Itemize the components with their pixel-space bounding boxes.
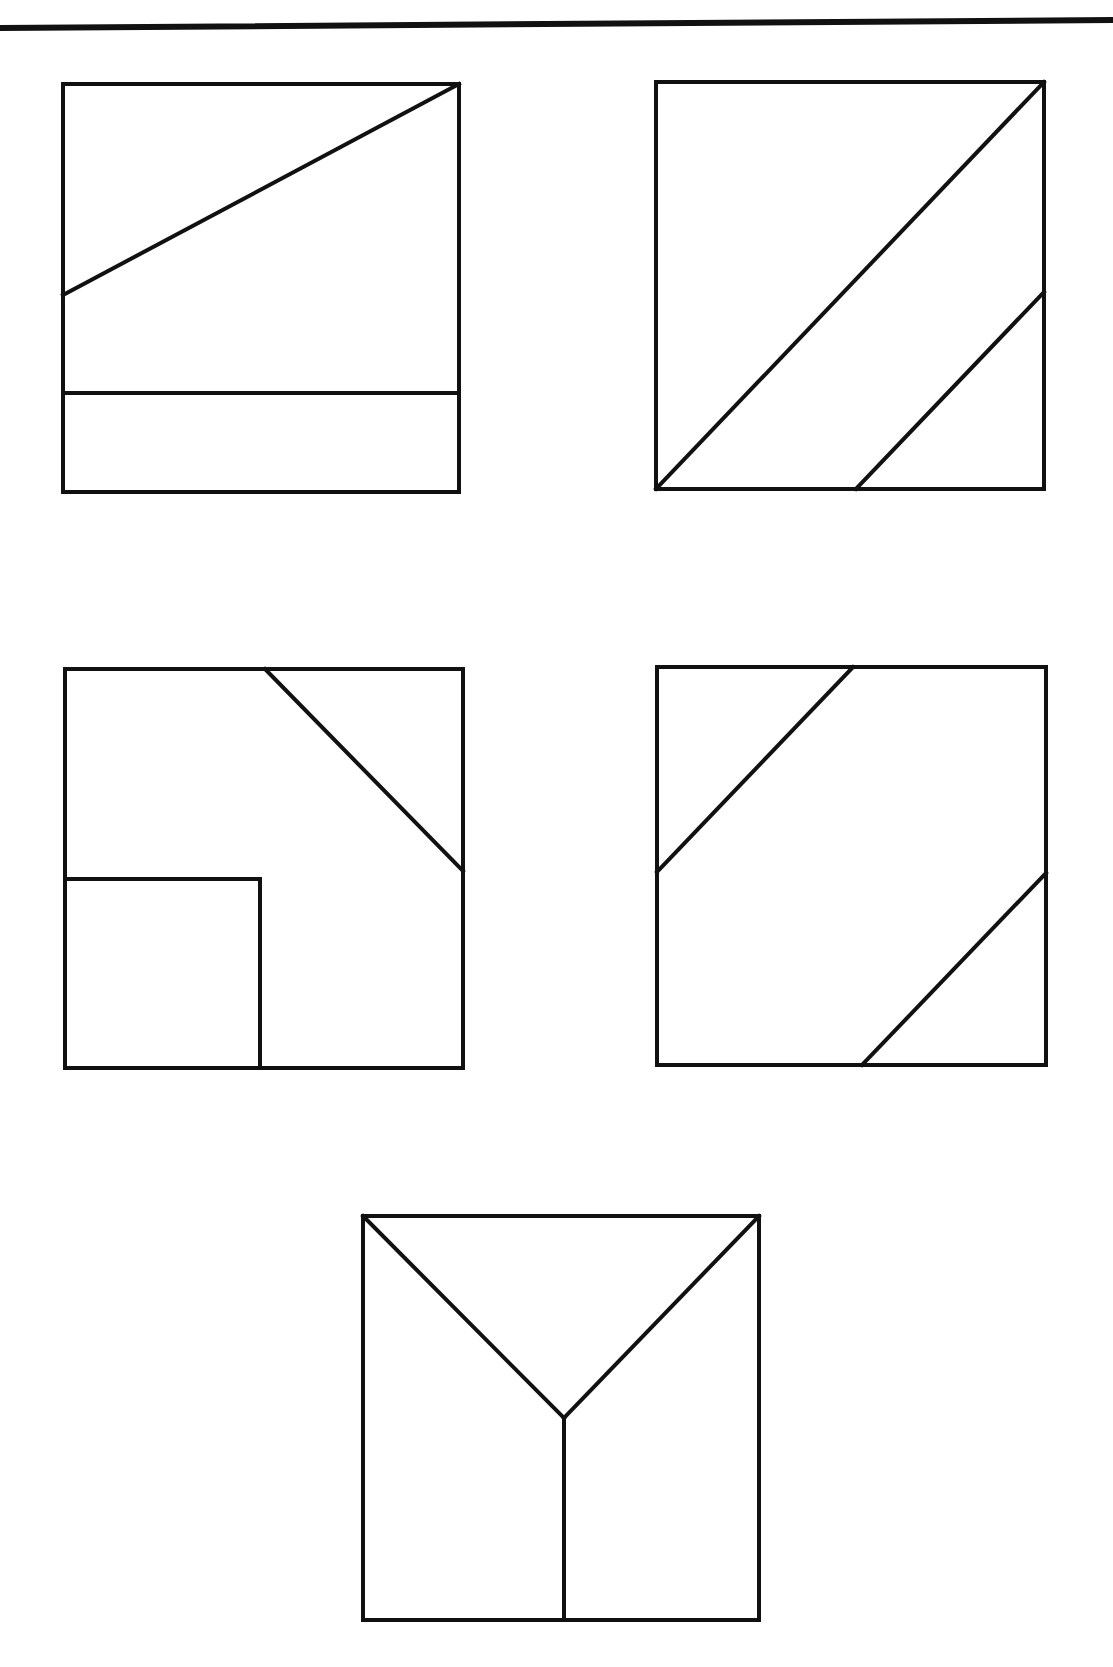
- figure-frame: [63, 84, 459, 492]
- figures-group: [63, 82, 1046, 1620]
- figure-4: [657, 667, 1046, 1065]
- figure-line: [856, 292, 1044, 489]
- figure-line: [862, 873, 1046, 1065]
- figure-3: [65, 669, 463, 1068]
- figure-frame: [65, 669, 463, 1068]
- figure-line: [265, 669, 463, 871]
- figure-line: [564, 1216, 759, 1418]
- figure-2: [656, 82, 1044, 489]
- figure-1: [63, 84, 459, 492]
- figure-line: [63, 84, 459, 295]
- top-rule-line: [0, 20, 1113, 28]
- figure-frame: [657, 667, 1046, 1065]
- diagram-canvas: [0, 0, 1113, 1667]
- figure-5: [363, 1216, 759, 1620]
- figure-line: [657, 667, 853, 872]
- figure-line: [363, 1216, 564, 1418]
- figure-line: [656, 82, 1044, 489]
